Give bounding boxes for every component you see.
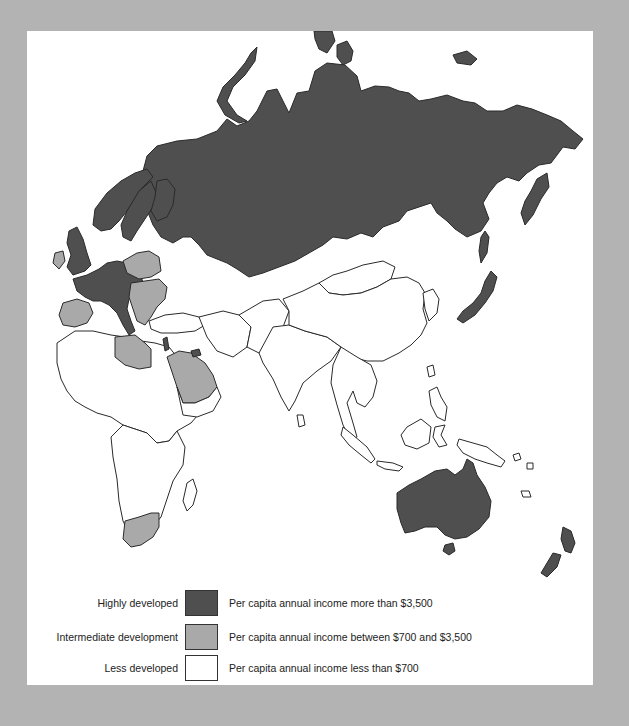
- philippines: [429, 387, 447, 421]
- ireland: [53, 251, 65, 269]
- new-zealand-north: [561, 527, 575, 553]
- legend-swatch-white: [185, 655, 218, 681]
- legend-description: Per capita annual income less than $700: [229, 662, 419, 674]
- sumatra: [341, 427, 375, 463]
- sri-lanka: [297, 415, 305, 427]
- turkey: [149, 313, 205, 333]
- novaya-zemlya: [217, 47, 257, 123]
- title-fragment: [0, 0, 629, 8]
- legend-item-highly-developed: Highly developed Per capita annual incom…: [27, 590, 593, 618]
- arctic-island: [314, 31, 335, 53]
- pacific-islands: [521, 491, 531, 497]
- arctic-island: [337, 41, 353, 65]
- legend-swatch-dark: [185, 590, 218, 616]
- pacific-islands: [527, 463, 533, 469]
- new-zealand-south: [541, 553, 561, 577]
- kuwait: [191, 349, 201, 357]
- japan: [457, 271, 497, 323]
- legend-label: Less developed: [104, 662, 178, 674]
- arctic-island: [453, 51, 477, 65]
- australia: [397, 459, 491, 539]
- legend-swatch-medium: [185, 624, 218, 650]
- pacific-islands: [513, 453, 521, 461]
- legend-description: Per capita annual income more than $3,50…: [229, 597, 433, 609]
- soviet-union: [141, 63, 583, 277]
- legend-item-intermediate: Intermediate development Per capita annu…: [27, 624, 593, 652]
- united-kingdom: [67, 227, 91, 275]
- world-map: [27, 31, 593, 591]
- borneo: [401, 419, 431, 449]
- sakhalin: [479, 231, 489, 263]
- legend-label: Highly developed: [97, 597, 178, 609]
- iberia: [59, 299, 93, 327]
- taiwan: [427, 365, 435, 377]
- sulawesi: [433, 425, 447, 447]
- legend-description: Per capita annual income between $700 an…: [229, 631, 472, 643]
- java: [377, 461, 403, 471]
- kamchatka: [521, 173, 549, 225]
- legend-label: Intermediate development: [57, 631, 178, 643]
- legend-item-less-developed: Less developed Per capita annual income …: [27, 655, 593, 683]
- tasmania: [443, 543, 455, 555]
- map-panel: Highly developed Per capita annual incom…: [27, 31, 593, 685]
- madagascar: [183, 479, 197, 511]
- new-guinea: [457, 439, 505, 467]
